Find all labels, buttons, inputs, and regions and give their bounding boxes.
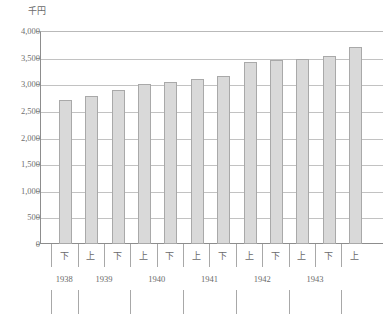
x-axis-year-separator [78,290,79,314]
x-axis-half-label: 下 [262,244,288,267]
x-axis-separator [289,244,290,267]
y-axis-tick-label: 3,000 [4,79,40,89]
plot-area [40,31,383,244]
x-axis-labels: 下上下上下上下上下上下上 193819391940194119421943 [40,244,383,291]
x-axis-separator [104,244,105,267]
x-axis-separator [341,244,342,267]
bar [191,79,204,244]
bar [270,60,283,244]
y-axis-tick-label: 4,000 [4,26,40,36]
y-axis-tick-label: 1,500 [4,159,40,169]
x-axis-year-row: 193819391940194119421943 [40,267,383,291]
x-axis-separator [209,244,210,267]
x-axis-year-separator [341,290,342,314]
x-axis-half-year-row: 下上下上下上下上下上下上 [40,244,383,267]
x-axis-half-label: 上 [130,244,156,267]
x-axis-separator [236,244,237,267]
x-axis-year-label: 1940 [130,267,183,291]
bar [59,100,72,244]
x-axis-year-separator [289,290,290,314]
bar [112,90,125,244]
bar [164,82,177,244]
y-axis-tick-label: 500 [4,212,40,222]
y-axis: 05001,0001,5002,0002,5003,0003,5004,000 [0,31,40,244]
bar [138,84,151,244]
x-axis-half-label: 上 [341,244,367,267]
x-axis-half-label: 下 [157,244,183,267]
x-axis-half-label: 下 [51,244,77,267]
y-axis-tick-label: 3,500 [4,53,40,63]
y-axis-unit-label: 千円 [28,4,46,17]
x-axis-separator [262,244,263,267]
bar [349,47,362,244]
x-axis-half-label: 下 [104,244,130,267]
x-axis-separator [130,244,131,267]
x-axis-year-separator [236,290,237,314]
x-axis-half-label: 上 [78,244,104,267]
bar [323,56,336,244]
x-axis-separator [157,244,158,267]
y-axis-tick-label: 1,000 [4,186,40,196]
x-axis-half-label: 上 [289,244,315,267]
y-axis-tick-label: 0 [4,239,40,249]
x-axis-separator [78,244,79,267]
x-axis-year-label: 1938 [51,267,77,291]
bar [296,59,309,244]
x-axis-year-separator [183,290,184,314]
bar [85,96,98,244]
bar [244,62,257,244]
x-axis-year-label: 1939 [78,267,131,291]
y-axis-tick-label: 2,000 [4,133,40,143]
x-axis-year-label: 1941 [183,267,236,291]
x-axis-year-separator [130,290,131,314]
x-axis-half-label: 下 [315,244,341,267]
bar [217,76,230,244]
x-axis-year-separator [51,290,52,314]
x-axis-half-label: 上 [236,244,262,267]
x-axis-year-label: 1942 [236,267,289,291]
x-axis-half-label: 上 [183,244,209,267]
y-axis-tick-label: 2,500 [4,106,40,116]
x-axis-separator [315,244,316,267]
x-axis-separator [51,244,52,267]
x-axis-year-label: 1943 [289,267,342,291]
x-axis-half-label: 下 [209,244,235,267]
x-axis-separator [183,244,184,267]
